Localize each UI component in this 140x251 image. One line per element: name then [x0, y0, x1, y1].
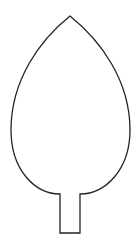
leaf-outline — [11, 16, 130, 233]
leaf-diagram — [0, 0, 140, 251]
leaf-outline-svg — [0, 0, 140, 251]
